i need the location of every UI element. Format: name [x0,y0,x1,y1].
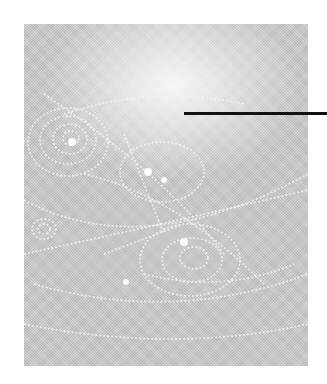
particle-tracks [24,24,308,366]
bubble-chamber-photo [24,24,308,366]
pointer-line [184,112,327,115]
